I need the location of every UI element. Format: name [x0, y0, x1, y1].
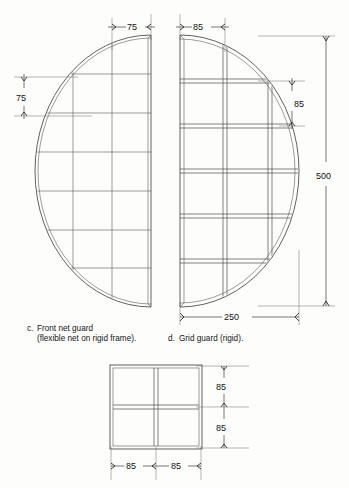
net-frame-outer-arc — [35, 35, 151, 307]
net-frame-inner-arc — [38, 38, 151, 304]
dim-grid-width-250: 250 — [180, 250, 299, 325]
captions: c. Front net guard (flexible net on rigi… — [27, 324, 243, 343]
dim-detail-right-85-lower: 85 — [196, 407, 249, 448]
detail-frame-inner — [113, 368, 199, 446]
dim-label-net-top-75: 75 — [127, 22, 137, 32]
dim-label-grid-right-85: 85 — [294, 99, 304, 109]
grid-frame-outer-arc — [180, 35, 299, 307]
front-net-guard-figure: 75 75 — [14, 14, 155, 312]
dim-detail-bottom-85-left: 85 — [111, 446, 156, 480]
dim-grid-right-85: 85 — [258, 78, 305, 129]
dim-label-detail-85-lower: 85 — [216, 423, 226, 433]
net-mesh — [20, 30, 155, 312]
grid-bars-vertical — [223, 30, 272, 312]
dim-label-grid-width-250: 250 — [224, 312, 239, 322]
caption-c-label: c. — [27, 324, 33, 333]
dim-label-detail-85-bottom-right: 85 — [171, 461, 181, 471]
detail-frame-outer — [110, 365, 202, 449]
caption-c-line1: Front net guard — [37, 324, 93, 333]
grid-frame-inner-arc — [180, 39, 295, 303]
grid-bars-horizontal — [176, 79, 302, 263]
dim-grid-height-500: 500 — [258, 36, 335, 306]
dim-label-detail-85-upper: 85 — [216, 382, 226, 392]
dim-detail-bottom-85-right: 85 — [156, 446, 201, 480]
dim-label-detail-85-bottom-left: 85 — [126, 461, 136, 471]
dim-detail-right-85-upper: 85 — [196, 366, 249, 407]
caption-d-line1: Grid guard (rigid). — [179, 334, 243, 343]
grid-cell-detail-figure: 85 85 85 — [110, 365, 249, 480]
grid-guard-figure: 85 85 — [176, 14, 335, 325]
drawing-canvas: 75 75 — [0, 0, 349, 488]
grid-bars — [176, 30, 302, 312]
technical-drawing-page: 75 75 — [0, 0, 349, 488]
caption-c-line2: (flexible net on rigid frame). — [37, 334, 136, 343]
dim-label-net-left-75: 75 — [16, 93, 26, 103]
caption-d-label: d. — [168, 334, 175, 343]
dim-label-grid-top-85: 85 — [193, 22, 203, 32]
dim-net-left-75: 75 — [14, 74, 92, 119]
dim-label-grid-height-500: 500 — [316, 171, 331, 181]
